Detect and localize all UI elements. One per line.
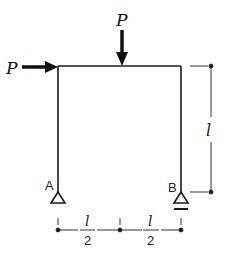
vertical-load-arrow-icon — [116, 30, 128, 66]
span-right-denominator: 2 — [147, 233, 154, 248]
span-dimension — [56, 218, 183, 232]
height-dimension-label: l — [206, 121, 211, 140]
pin-support-icon — [51, 192, 65, 203]
support-b-label: B — [168, 180, 177, 195]
span-left-denominator: 2 — [84, 233, 91, 248]
portal-frame-diagram: P P A B l l 2 l 2 — [0, 0, 234, 259]
horizontal-load-arrow-icon — [22, 61, 58, 73]
frame — [58, 66, 181, 192]
span-left-numerator: l — [85, 213, 89, 229]
horizontal-load-label: P — [5, 58, 18, 78]
vertical-load-label: P — [115, 10, 128, 30]
span-right-numerator: l — [148, 213, 152, 229]
support-a-label: A — [45, 178, 54, 193]
